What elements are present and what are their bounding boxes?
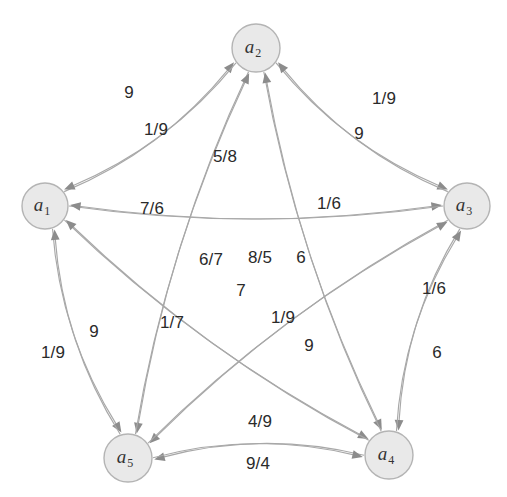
- edge-label-a2-a4: 1/6: [317, 195, 341, 212]
- edge-label-a2-a5: 7: [236, 282, 246, 299]
- node-label-subscript: 5: [127, 456, 133, 470]
- edge-label-a5-a1: 9: [89, 323, 99, 340]
- directed-graph-figure: a1a2a3a4a5 91/95/88/51/997/66/71/661/997…: [0, 0, 507, 497]
- node-label-subscript: 3: [466, 204, 472, 218]
- node-a5[interactable]: a5: [104, 434, 152, 482]
- edge-a4-to-a3: [396, 231, 461, 432]
- edge-label-a3-a1: 8/5: [248, 249, 272, 266]
- edge-label-a5-a4: 9/4: [246, 455, 270, 472]
- edge-label-a2-a3: 1/9: [372, 90, 396, 107]
- edge-a1-to-a3: [69, 202, 442, 219]
- edge-a3-to-a1: [70, 202, 443, 219]
- node-a2[interactable]: a2: [232, 24, 280, 72]
- edge-path: [55, 236, 120, 434]
- arrowhead-icon: [436, 181, 447, 189]
- edge-label-a5-a3: 9: [304, 337, 314, 354]
- edge-path: [69, 206, 435, 219]
- node-label-subscript: 1: [44, 204, 50, 218]
- edge-label-a2-a1: 1/9: [144, 121, 168, 138]
- edge-path: [77, 206, 443, 219]
- edge-label-a3-a2: 9: [354, 125, 364, 142]
- edge-label-a4-a3: 6: [432, 344, 442, 361]
- edge-path: [266, 79, 381, 431]
- edge-label-a4-a1: 6/7: [199, 251, 223, 268]
- edge-path: [148, 225, 441, 443]
- edge-label-a3-a5: 1/9: [271, 309, 295, 326]
- node-label-subscript: 4: [388, 453, 394, 467]
- edge-label-a4-a2: 6: [296, 249, 306, 266]
- edge-label-a1-a4: 7/6: [140, 200, 164, 217]
- node-a1[interactable]: a1: [22, 183, 68, 229]
- arrowhead-icon: [395, 420, 404, 431]
- node-a4[interactable]: a4: [365, 431, 413, 479]
- edge-label-a1-a5: 1/9: [41, 344, 65, 361]
- edge-label-a4-a5: 4/9: [248, 413, 272, 430]
- edge-path: [282, 68, 447, 192]
- edge-a3-to-a4: [395, 229, 460, 431]
- edge-label-a3-a4: 1/6: [422, 280, 446, 297]
- edge-path: [396, 237, 457, 432]
- edge-a1-to-a5: [53, 229, 122, 433]
- edge-label-a1-a3: 5/8: [213, 148, 237, 165]
- edge-label-a1-a2: 9: [124, 84, 134, 101]
- arrowhead-icon: [64, 181, 75, 189]
- edge-label-a5-a2: 1/7: [160, 314, 184, 331]
- node-label-subscript: 2: [255, 46, 261, 60]
- edge-a2-to-a4: [264, 72, 382, 430]
- edge-path: [399, 229, 460, 424]
- node-a3[interactable]: a3: [444, 183, 490, 229]
